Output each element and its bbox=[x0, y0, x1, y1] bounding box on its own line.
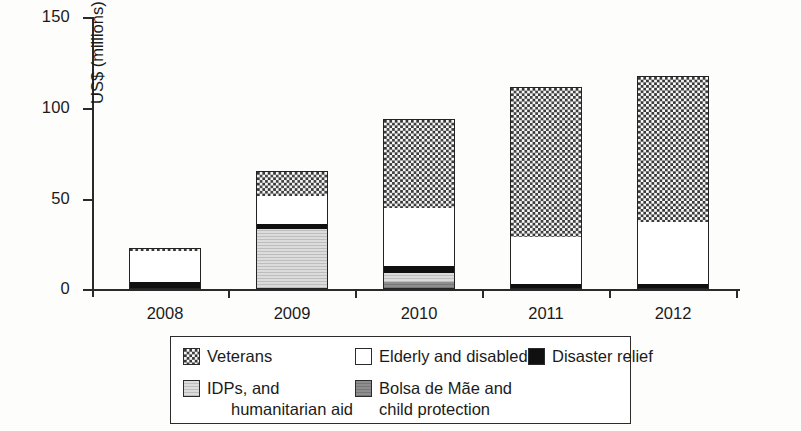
bar-2009-segment-idps-humanitarian-aid bbox=[256, 229, 328, 289]
x-tick-2012 bbox=[736, 289, 738, 298]
bar-2008-segment-elderly-and-disabled bbox=[129, 251, 201, 282]
legend-label-veterans: Veterans bbox=[207, 346, 272, 367]
bar-2009-segment-disaster-relief bbox=[256, 224, 328, 229]
bar-2010[interactable] bbox=[383, 119, 455, 289]
x-tick-label-2008: 2008 bbox=[110, 304, 220, 323]
bar-2012[interactable] bbox=[637, 76, 709, 289]
legend-item-disaster-relief[interactable]: Disaster relief bbox=[528, 346, 653, 367]
bar-2008-segment-disaster-relief bbox=[129, 282, 201, 289]
legend-swatch-bolsa-icon bbox=[355, 380, 372, 397]
bar-2012-segment-elderly-and-disabled bbox=[637, 222, 709, 283]
bar-2011-segment-disaster-relief bbox=[510, 284, 582, 289]
legend-swatch-idps-icon bbox=[183, 380, 200, 397]
legend-swatch-disaster-icon bbox=[528, 348, 545, 365]
legend-label-elderly-and-disabled: Elderly and disabled bbox=[379, 346, 528, 367]
y-tick-label-100: 100 bbox=[26, 98, 70, 117]
bar-2009-segment-veterans bbox=[256, 171, 328, 196]
legend-label-idps-line2: humanitarian aid bbox=[231, 399, 353, 420]
bar-2008[interactable] bbox=[129, 248, 201, 289]
bar-2010-segment-elderly-and-disabled bbox=[383, 208, 455, 266]
legend-label-disaster-relief: Disaster relief bbox=[552, 346, 653, 367]
legend-swatch-elderly-icon bbox=[355, 348, 372, 365]
y-tick-label-50: 50 bbox=[26, 189, 70, 208]
chart-legend: Veterans Elderly and disabled Disaster r… bbox=[170, 336, 631, 424]
y-tick-150 bbox=[83, 17, 92, 19]
bar-2009[interactable] bbox=[256, 171, 328, 289]
bar-2012-segment-veterans bbox=[637, 76, 709, 222]
plot-area: US$ (millions) 150 100 50 0 2008 2009 20… bbox=[92, 8, 742, 300]
y-tick-50 bbox=[83, 199, 92, 201]
x-axis-line bbox=[92, 289, 740, 291]
bar-2010-segment-veterans bbox=[383, 119, 455, 208]
x-tick-label-2010: 2010 bbox=[364, 304, 474, 323]
y-tick-label-0: 0 bbox=[26, 279, 70, 298]
chart-figure: US$ (millions) 150 100 50 0 2008 2009 20… bbox=[0, 0, 801, 431]
legend-label-bolsa-line2: child protection bbox=[379, 399, 512, 420]
x-tick-2011 bbox=[609, 289, 611, 298]
legend-item-veterans[interactable]: Veterans bbox=[183, 346, 272, 367]
x-tick-2010 bbox=[482, 289, 484, 298]
x-tick-label-2009: 2009 bbox=[237, 304, 347, 323]
bar-2010-segment-idps-humanitarian-aid bbox=[383, 273, 455, 282]
bar-2011[interactable] bbox=[510, 87, 582, 289]
bar-2010-segment-bolsa-de-mae-child-protection bbox=[383, 282, 455, 289]
legend-label-idps-line1: IDPs, and bbox=[207, 379, 279, 397]
y-tick-0 bbox=[83, 289, 92, 291]
y-tick-label-150: 150 bbox=[26, 7, 70, 26]
x-tick-label-2012: 2012 bbox=[618, 304, 728, 323]
x-tick-label-2011: 2011 bbox=[491, 304, 601, 323]
bar-2011-segment-elderly-and-disabled bbox=[510, 237, 582, 284]
bar-2008-segment-veterans bbox=[129, 248, 201, 251]
legend-swatch-veterans-icon bbox=[183, 348, 200, 365]
x-tick-2009 bbox=[355, 289, 357, 298]
y-tick-100 bbox=[83, 108, 92, 110]
bar-2012-segment-disaster-relief bbox=[637, 284, 709, 289]
bar-2010-segment-disaster-relief bbox=[383, 266, 455, 273]
x-tick-2008 bbox=[228, 289, 230, 298]
bar-2009-segment-elderly-and-disabled bbox=[256, 196, 328, 223]
legend-item-bolsa-de-mae-child-protection[interactable]: Bolsa de Mãe and child protection bbox=[355, 378, 512, 420]
bar-2011-segment-veterans bbox=[510, 87, 582, 237]
legend-item-elderly-and-disabled[interactable]: Elderly and disabled bbox=[355, 346, 528, 367]
legend-label-bolsa-line1: Bolsa de Mãe and bbox=[379, 379, 512, 397]
legend-item-idps-humanitarian-aid[interactable]: IDPs, and humanitarian aid bbox=[183, 378, 353, 420]
